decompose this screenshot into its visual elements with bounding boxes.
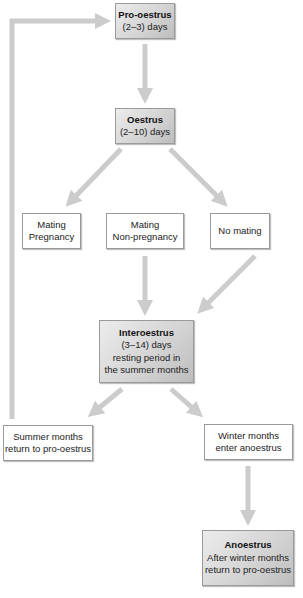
node-mating-non-pregnancy: Mating Non-pregnancy <box>106 213 184 249</box>
arrow-oestrus-to-no-mating <box>170 149 222 201</box>
arrow-interoestrus-to-summer <box>94 389 122 412</box>
node-no-mating: No mating <box>210 213 270 249</box>
node-line: Pregnancy <box>29 231 74 244</box>
node-summer-months: Summer months return to pro-oestrus <box>3 425 93 461</box>
node-line: (3–14) days <box>121 339 171 352</box>
node-line: After winter months <box>207 552 289 565</box>
node-mating-pregnancy: Mating Pregnancy <box>22 213 81 249</box>
node-line: enter anoestrus <box>215 442 281 455</box>
node-anoestrus: Anoestrus After winter months return to … <box>202 530 294 586</box>
node-line: No mating <box>218 225 261 238</box>
node-oestrus: Oestrus (2–10) days <box>115 108 175 144</box>
node-line: Mating <box>131 219 160 232</box>
node-title: Pro-oestrus <box>118 9 171 22</box>
arrow-interoestrus-to-winter <box>171 389 197 412</box>
node-title: Anoestrus <box>225 539 272 552</box>
node-line: Mating <box>37 219 66 232</box>
node-line: the summer months <box>105 364 189 377</box>
arrow-no-mating-to-interoestrus <box>203 256 255 308</box>
node-line: Summer months <box>13 431 83 444</box>
node-title: Oestrus <box>127 114 163 127</box>
node-winter-months: Winter months enter anoestrus <box>204 424 293 460</box>
node-pro-oestrus: Pro-oestrus (2–3) days <box>115 3 175 39</box>
node-line: (2–3) days <box>123 21 168 34</box>
node-title: Interoestrus <box>119 327 174 340</box>
node-line: Winter months <box>218 430 279 443</box>
node-line: return to pro-oestrus <box>5 443 91 456</box>
arrow-oestrus-to-mating-pregnancy <box>71 149 121 201</box>
node-line: resting period in <box>113 352 181 365</box>
node-interoestrus: Interoestrus (3–14) days resting period … <box>99 320 194 383</box>
arrows-layer <box>0 0 303 598</box>
node-line: (2–10) days <box>120 126 170 139</box>
node-line: return to pro-oestrus <box>205 564 291 577</box>
node-line: Non-pregnancy <box>113 231 178 244</box>
